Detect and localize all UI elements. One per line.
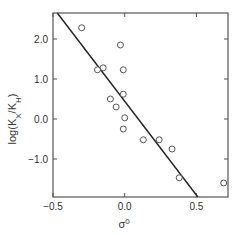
- data-point-marker: [120, 126, 126, 132]
- data-point-marker: [100, 65, 106, 71]
- data-point-marker: [221, 180, 227, 186]
- y-axis-ticks: 2.01.00.0−1.0: [28, 34, 228, 165]
- data-point-marker: [122, 115, 128, 121]
- y-axis-label: log(KX/KH): [6, 94, 23, 145]
- y-tick-label: 0.0: [34, 114, 48, 125]
- data-point-marker: [169, 146, 175, 152]
- scatter-chart: 2.01.00.0−1.0 −0.50.00.5 log(KX/KH) σ0: [0, 0, 242, 235]
- data-points: [79, 25, 227, 186]
- regression-line: [57, 13, 198, 197]
- fit-line: [57, 13, 198, 197]
- data-point-marker: [117, 42, 123, 48]
- y-tick-label: −1.0: [28, 154, 48, 165]
- data-point-marker: [113, 104, 119, 110]
- data-point-marker: [120, 91, 126, 97]
- data-point-marker: [79, 25, 85, 31]
- data-point-marker: [107, 96, 113, 102]
- x-tick-label: −0.5: [43, 201, 63, 212]
- x-tick-label: 0.0: [118, 201, 132, 212]
- y-tick-label: 1.0: [34, 74, 48, 85]
- data-point-marker: [94, 67, 100, 73]
- y-tick-label: 2.0: [34, 34, 48, 45]
- x-axis-label: σ0: [118, 217, 130, 231]
- data-point-marker: [120, 67, 126, 73]
- data-point-marker: [156, 137, 162, 143]
- data-point-marker: [140, 137, 146, 143]
- data-point-marker: [176, 175, 182, 181]
- x-axis-ticks: −0.50.00.5: [43, 13, 204, 212]
- x-tick-label: 0.5: [189, 201, 203, 212]
